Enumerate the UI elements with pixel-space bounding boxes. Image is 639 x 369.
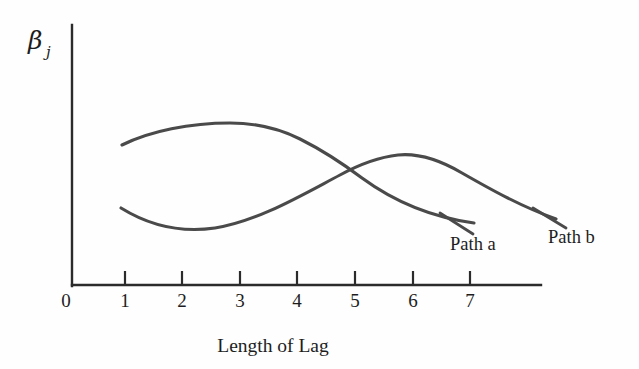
leader-line-path-b [533, 208, 566, 228]
x-tick-label-1: 1 [120, 290, 130, 311]
series-line-path-b [122, 123, 474, 223]
x-axis-title: Length of Lag [217, 335, 329, 356]
series-label-path-b: Path b [548, 227, 595, 247]
x-tick-label-4: 4 [292, 290, 302, 311]
x-tick-label-5: 5 [350, 290, 360, 311]
y-axis-label-symbol: β [27, 26, 42, 55]
series-label-path-a: Path a [450, 234, 496, 254]
chart-plot-area: 0 1 2 3 4 5 6 7 β j Path a Path b Length… [0, 0, 639, 369]
x-tick-label-6: 6 [408, 290, 418, 311]
x-tick-label-0: 0 [61, 290, 71, 311]
chart-figure: 0 1 2 3 4 5 6 7 β j Path a Path b Length… [0, 0, 639, 369]
x-tick-label-7: 7 [465, 290, 475, 311]
y-axis-label-subscript: j [43, 43, 51, 61]
x-tick-label-2: 2 [177, 290, 187, 311]
series-line-path-a [121, 155, 556, 230]
x-tick-label-3: 3 [235, 290, 245, 311]
